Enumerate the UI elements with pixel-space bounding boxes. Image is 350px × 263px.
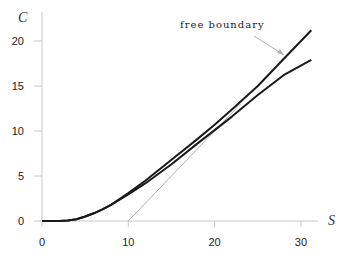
arrow-head-icon — [277, 49, 284, 55]
x-ticks: 0102030 — [39, 221, 307, 248]
upper-curve — [42, 30, 311, 221]
x-tick-label: 20 — [208, 236, 220, 248]
chart: 05101520 0102030 C S free boundary — [0, 0, 350, 263]
y-tick-label: 20 — [12, 35, 24, 47]
y-tick-label: 10 — [12, 125, 24, 137]
lower-curve — [42, 60, 311, 221]
y-axis-label: C — [18, 10, 28, 25]
x-tick-label: 0 — [39, 236, 45, 248]
y-ticks: 05101520 — [12, 35, 42, 227]
y-tick-label: 0 — [18, 215, 24, 227]
x-tick-label: 30 — [295, 236, 307, 248]
series-group — [42, 30, 311, 221]
y-tick-label: 15 — [12, 80, 24, 92]
free-boundary-label: free boundary — [180, 19, 265, 30]
x-axis-label: S — [328, 213, 335, 228]
x-tick-label: 10 — [122, 236, 134, 248]
y-tick-label: 5 — [18, 170, 24, 182]
payoff-line — [128, 104, 240, 221]
